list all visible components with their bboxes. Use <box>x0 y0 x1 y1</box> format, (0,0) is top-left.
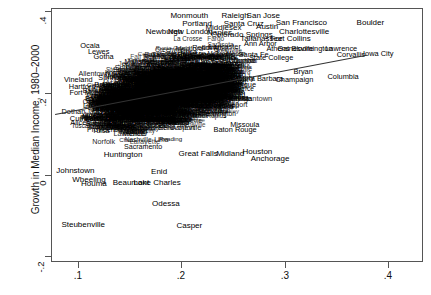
data-point-label: Fort Myers <box>69 89 104 97</box>
list-item: Chico <box>119 137 135 144</box>
list-item: Allentown <box>101 81 130 88</box>
x-tick-label: .3 <box>270 270 300 281</box>
list-item: Lafayette <box>164 56 191 63</box>
x-tick-mark <box>78 262 79 268</box>
data-point-label: Minneapolis <box>195 51 234 59</box>
data-point-label: Alice <box>70 119 86 127</box>
data-point-label: Columbia <box>327 73 358 81</box>
plot-area: MorgantownSteubenvilleBarreBoiseAltoonaJ… <box>51 8 423 262</box>
y-tick-label: 0 <box>37 181 48 205</box>
data-point-label: San Francisco <box>276 19 327 27</box>
x-tick-mark <box>388 262 389 268</box>
data-point-label: Huntington <box>104 151 143 159</box>
list-item: Reading <box>159 136 182 143</box>
data-point-label: Iowa City <box>363 50 393 58</box>
y-tick-label: .2 <box>37 99 48 123</box>
data-point-label: Gotha <box>94 53 114 61</box>
data-point-label: Steubenville <box>61 221 105 229</box>
data-point-label: Midland <box>216 150 244 158</box>
list-item: Bradenton <box>180 93 210 100</box>
scatter-plot-figure: Growth in Median Income, 1980–2000 .4 .2… <box>0 0 431 295</box>
data-point-label: Houma <box>81 180 107 188</box>
data-point-label: Anchorage <box>251 155 290 163</box>
list-item: Phoenix <box>148 85 174 92</box>
list-item: Mobile <box>171 109 191 116</box>
data-point-label: Odessa <box>152 200 180 208</box>
data-point-label: Enid <box>151 168 167 176</box>
data-point-label: Boulder <box>357 19 385 27</box>
list-item: Utica <box>213 63 227 70</box>
list-item: La Crosse <box>174 36 203 43</box>
list-item: Springfield <box>135 73 169 80</box>
data-point-label: Johnstown <box>56 167 94 175</box>
y-tick-label: -.2 <box>35 262 46 286</box>
data-point-label: State College <box>249 54 293 62</box>
list-item: Norfolk <box>92 138 115 145</box>
data-point-label: Baton Rouge <box>214 126 257 134</box>
y-tick-label: .4 <box>37 17 48 41</box>
list-item: Providence <box>114 126 146 133</box>
data-point-label: Casper <box>176 222 202 230</box>
list-item: Utica <box>98 125 112 132</box>
list-item: Haverhill <box>200 100 225 107</box>
data-point-label: New London <box>168 28 213 36</box>
x-tick-mark <box>285 262 286 268</box>
list-item: Bellingham <box>114 89 149 96</box>
x-tick-label: .2 <box>166 270 196 281</box>
data-point-label: Great Falls <box>179 150 218 158</box>
x-tick-label: .4 <box>373 270 403 281</box>
x-tick-label: .1 <box>63 270 93 281</box>
x-tick-mark <box>181 262 182 268</box>
list-item: Mansfield <box>124 59 154 66</box>
list-item: Norfolk <box>105 74 126 81</box>
data-point-label: Lake Charles <box>134 179 181 187</box>
